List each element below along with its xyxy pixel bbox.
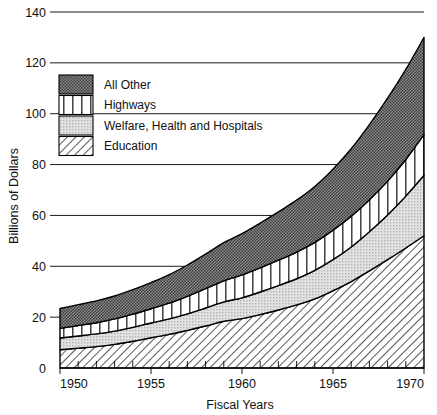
y-tick-label-40: 40 bbox=[32, 260, 46, 274]
x-tick-label-1960: 1960 bbox=[228, 377, 256, 391]
legend-label-all-other: All Other bbox=[104, 78, 151, 92]
y-tick-label-140: 140 bbox=[25, 6, 46, 20]
y-tick-label-120: 120 bbox=[25, 56, 46, 70]
x-tick-label-1970: 1970 bbox=[396, 377, 424, 391]
y-tick-label-80: 80 bbox=[32, 158, 46, 172]
legend-label-education: Education bbox=[104, 139, 157, 153]
stacked-area-chart: 020406080100120140 19501955196019651970 … bbox=[0, 0, 437, 415]
y-axis-title: Billions of Dollars bbox=[7, 148, 21, 244]
legend-swatch-education bbox=[59, 137, 93, 156]
legend-swatch-highways bbox=[59, 96, 93, 115]
x-tick-label-1965: 1965 bbox=[319, 377, 347, 391]
x-tick-label-1950: 1950 bbox=[60, 377, 88, 391]
y-tick-label-20: 20 bbox=[32, 311, 46, 325]
chart-legend: All OtherHighwaysWelfare, Health and Hos… bbox=[59, 75, 263, 156]
y-tick-label-0: 0 bbox=[39, 362, 46, 376]
x-tick-label-1955: 1955 bbox=[137, 377, 165, 391]
y-tick-label-60: 60 bbox=[32, 209, 46, 223]
legend-label-highways: Highways bbox=[104, 98, 156, 112]
y-tick-label-100: 100 bbox=[25, 107, 46, 121]
y-axis-ticks: 020406080100120140 bbox=[25, 6, 60, 376]
x-axis-title: Fiscal Years bbox=[206, 398, 273, 412]
legend-label-welfare-health-hospitals: Welfare, Health and Hospitals bbox=[104, 119, 263, 133]
chart-container: 020406080100120140 19501955196019651970 … bbox=[0, 0, 437, 415]
legend-swatch-all-other bbox=[59, 75, 93, 94]
legend-swatch-welfare-health-hospitals bbox=[59, 116, 93, 135]
